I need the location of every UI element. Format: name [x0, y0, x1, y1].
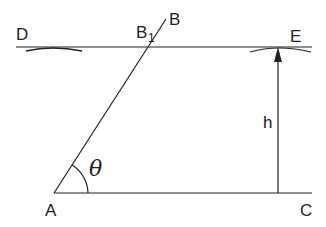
label-h: h [263, 113, 272, 132]
label-a: A [45, 201, 57, 220]
geometry-diagram: D B 1 B E h θ A C [0, 0, 326, 227]
label-e: E [290, 27, 301, 46]
label-theta: θ [89, 156, 102, 181]
arc-mark-d [26, 48, 82, 51]
slant-line-ab [54, 19, 166, 193]
label-d: D [16, 25, 28, 44]
arrowhead-up-icon [274, 47, 282, 62]
label-b1: B [136, 23, 147, 42]
label-c: C [300, 201, 312, 220]
label-b: B [169, 10, 180, 29]
angle-arc-theta [72, 165, 88, 193]
label-b1-subscript: 1 [148, 31, 155, 45]
arc-mark-e [250, 48, 311, 52]
